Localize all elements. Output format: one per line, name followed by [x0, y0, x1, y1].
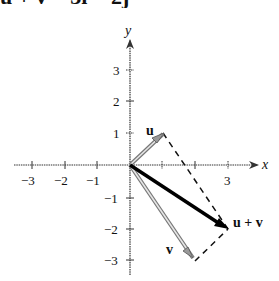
y-tick-label: 1: [113, 126, 120, 141]
x-axis: x: [14, 157, 269, 172]
vector-u: u: [130, 123, 164, 165]
vector-u-label: u: [146, 123, 154, 138]
vector-diagram: x y −3 −2 −1 3 3 2 1 −1 −2 −3: [0, 0, 279, 281]
y-tick-label: −3: [104, 253, 118, 268]
x-axis-label: x: [261, 157, 269, 172]
x-tick-label: −1: [86, 173, 100, 188]
y-axis: y: [123, 23, 132, 275]
y-tick-label: 3: [113, 63, 120, 78]
y-axis-label: y: [123, 23, 132, 38]
x-tick-label: −3: [21, 173, 35, 188]
x-tick-label: −2: [54, 173, 68, 188]
y-tick-label: −1: [104, 191, 118, 206]
y-tick-label: −2: [104, 222, 118, 237]
x-tick-label: 3: [224, 173, 231, 188]
vector-u-plus-v-label: u + v: [233, 215, 263, 230]
y-tick-label: 2: [113, 94, 120, 109]
vector-v-label: v: [166, 242, 173, 257]
vector-v: v: [130, 165, 193, 258]
